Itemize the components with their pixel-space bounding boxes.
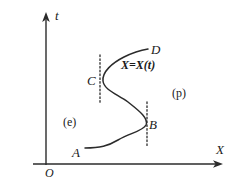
t-axis <box>42 12 50 165</box>
point-label-c: C <box>87 74 96 87</box>
point-label-a: A <box>72 146 80 159</box>
region-label-e: (e) <box>63 116 76 128</box>
origin-label: O <box>45 167 54 179</box>
curve-equation-label: X=X(t) <box>121 59 155 71</box>
x-axis <box>33 160 223 168</box>
t-axis-label: t <box>55 9 59 22</box>
diagram-svg <box>0 0 241 188</box>
point-label-d: D <box>151 43 160 56</box>
point-label-b: B <box>149 118 157 131</box>
figure-canvas: t X O A B C D (e) (p) X=X(t) <box>0 0 241 188</box>
region-label-p: (p) <box>172 87 186 99</box>
x-axis-label: X <box>216 143 224 156</box>
